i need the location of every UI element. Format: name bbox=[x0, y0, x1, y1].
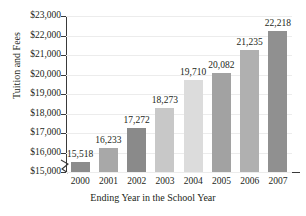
y-axis-tick-mark bbox=[61, 114, 66, 115]
y-axis-tick-mark bbox=[61, 172, 66, 173]
y-axis-tick-mark bbox=[61, 153, 66, 154]
y-axis-tick-mark bbox=[61, 55, 66, 56]
y-axis-tick-label: $23,000 bbox=[7, 10, 61, 20]
x-axis-tick-label: 2007 bbox=[260, 176, 296, 186]
bar bbox=[240, 50, 259, 172]
gridline bbox=[66, 16, 292, 17]
bar bbox=[184, 80, 203, 172]
y-axis-tick-label: $18,000 bbox=[7, 108, 61, 118]
y-axis-tick-label: $15,000 bbox=[7, 166, 61, 176]
bar bbox=[71, 162, 90, 172]
y-axis-tick-mark bbox=[61, 94, 66, 95]
x-axis-title: Ending Year in the School Year bbox=[0, 192, 306, 203]
y-axis-tick-group: $15,000$16,000$17,000$18,000$19,000$20,0… bbox=[0, 0, 61, 216]
gridline bbox=[66, 36, 292, 37]
y-axis-tick-label: $17,000 bbox=[7, 127, 61, 137]
y-axis-tick-label: $16,000 bbox=[7, 147, 61, 157]
bar-value-label: 22,218 bbox=[252, 18, 304, 28]
bar bbox=[268, 31, 287, 172]
y-axis-tick-mark bbox=[61, 16, 66, 17]
plot-area: 15,51816,23317,27218,27319,71020,08221,2… bbox=[66, 16, 292, 172]
bar bbox=[155, 108, 174, 172]
y-axis-tick-mark bbox=[61, 133, 66, 134]
y-axis-tick-label: $19,000 bbox=[7, 88, 61, 98]
gridline bbox=[66, 172, 292, 173]
y-axis-tick-label: $21,000 bbox=[7, 49, 61, 59]
bar bbox=[127, 128, 146, 172]
bar bbox=[212, 73, 231, 172]
bar bbox=[99, 148, 118, 172]
bar-chart: Tuition and Fees $15,000$16,000$17,000$1… bbox=[0, 0, 306, 216]
y-axis-tick-mark bbox=[61, 36, 66, 37]
y-axis-tick-label: $22,000 bbox=[7, 30, 61, 40]
y-axis-tick-mark bbox=[61, 75, 66, 76]
y-axis-tick-label: $20,000 bbox=[7, 69, 61, 79]
